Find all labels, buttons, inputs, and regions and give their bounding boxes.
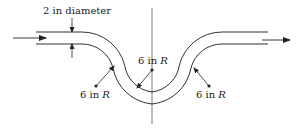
middle-radius-label: 6 in R (138, 55, 168, 66)
left-radius-label: 6 in R (80, 89, 110, 100)
left-radius-line (96, 66, 114, 86)
middle-radius-line (137, 70, 152, 88)
diameter-label: 2 in diameter (43, 5, 111, 16)
right-radius-line (194, 68, 209, 86)
pipe-bend-diagram: 2 in diameter 6 in R 6 in R 6 in R (0, 0, 303, 128)
right-radius-label: 6 in R (196, 89, 226, 100)
